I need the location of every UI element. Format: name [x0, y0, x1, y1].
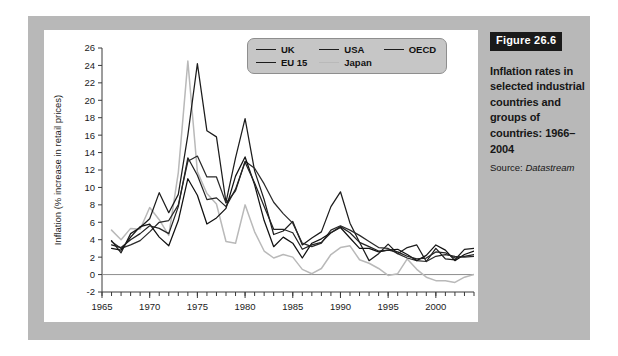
svg-text:1980: 1980 [235, 301, 256, 312]
legend-swatch-oecd [384, 49, 404, 50]
figure-title: Inflation rates in selected industrial c… [490, 64, 588, 158]
figure-root: -202468101214161820222426196519701975198… [0, 0, 618, 356]
svg-text:1995: 1995 [378, 301, 399, 312]
svg-text:18: 18 [84, 112, 95, 123]
legend-label-oecd: OECD [409, 44, 436, 55]
chart-legend: UK USA OECD EU 15 Japan [247, 38, 447, 74]
legend-item-oecd[interactable]: OECD [384, 44, 438, 55]
figure-number-badge: Figure 26.6 [490, 32, 562, 51]
svg-text:1975: 1975 [187, 301, 208, 312]
legend-item-uk[interactable]: UK [256, 44, 309, 55]
legend-swatch-usa [319, 49, 339, 50]
legend-swatch-uk [256, 49, 276, 50]
legend-swatch-japan [319, 62, 339, 63]
svg-text:1970: 1970 [139, 301, 160, 312]
svg-text:14: 14 [84, 147, 95, 158]
legend-label-japan: Japan [344, 57, 371, 68]
svg-text:10: 10 [84, 182, 95, 193]
figure-source-value: Datastream [525, 162, 574, 173]
svg-text:8: 8 [90, 199, 95, 210]
svg-text:2: 2 [90, 252, 95, 263]
svg-text:1990: 1990 [330, 301, 351, 312]
legend-item-japan[interactable]: Japan [319, 57, 373, 68]
svg-text:24: 24 [84, 60, 95, 71]
legend-grid: UK USA OECD EU 15 Japan [256, 44, 438, 68]
legend-label-uk: UK [281, 44, 295, 55]
svg-text:12: 12 [84, 164, 95, 175]
svg-text:16: 16 [84, 130, 95, 141]
legend-label-eu15: EU 15 [281, 57, 307, 68]
svg-text:6: 6 [90, 217, 95, 228]
svg-text:4: 4 [90, 234, 95, 245]
svg-text:1965: 1965 [91, 301, 112, 312]
legend-swatch-eu15 [256, 62, 276, 63]
svg-text:Inflation (% increase in retai: Inflation (% increase in retail prices) [52, 95, 63, 245]
svg-text:1985: 1985 [282, 301, 303, 312]
figure-source: Source: Datastream [490, 162, 588, 174]
legend-item-eu15[interactable]: EU 15 [256, 57, 309, 68]
svg-text:0: 0 [90, 269, 95, 280]
legend-item-usa[interactable]: USA [319, 44, 373, 55]
svg-text:20: 20 [84, 95, 95, 106]
svg-text:22: 22 [84, 77, 95, 88]
figure-source-label: Source: [490, 162, 523, 173]
legend-label-usa: USA [344, 44, 364, 55]
svg-text:26: 26 [84, 42, 95, 53]
svg-text:2000: 2000 [425, 301, 446, 312]
chart-card: -202468101214161820222426196519701975198… [44, 30, 478, 322]
svg-text:-2: -2 [87, 286, 95, 297]
figure-caption: Figure 26.6 Inflation rates in selected … [490, 30, 588, 322]
